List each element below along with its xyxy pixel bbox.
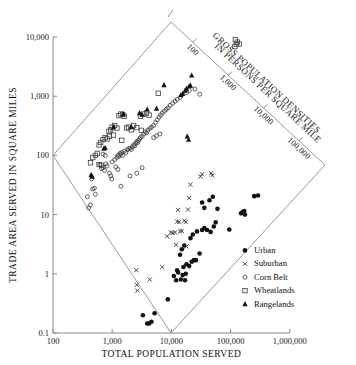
chart-svg: 1001,00010,000100,0001,000,0000.11101001… — [0, 0, 356, 365]
y-tick-label: 10 — [41, 210, 50, 220]
density-tick-label: 1,000 — [218, 72, 239, 92]
legend-item-rangelands[interactable]: Rangelands — [242, 299, 294, 309]
x-axis-title: TOTAL POPULATION SERVED — [102, 349, 242, 359]
x-tick-label: 1,000 — [103, 336, 122, 346]
x-tick-label: 10,000 — [160, 336, 183, 346]
legend-label: Rangelands — [254, 299, 295, 309]
legend-item-corn-belt[interactable]: Corn Belt — [243, 272, 288, 282]
density-axis-title-line2: IN PERSONS PER SQUARE MILE — [213, 41, 324, 145]
x-tick-label: 1,000,000 — [273, 336, 307, 346]
density-tick-label: 100 — [185, 41, 201, 57]
legend-label: Suburban — [254, 258, 288, 268]
scatter-chart-figure: 1001,00010,000100,0001,000,0000.11101001… — [0, 0, 356, 365]
density-axis: 1001,00010,000100,000GROSS POPULATION DE… — [185, 30, 323, 161]
legend-item-wheatlands[interactable]: Wheatlands — [243, 285, 295, 295]
legend-label: Wheatlands — [254, 285, 295, 295]
y-tick-label: 100 — [36, 150, 49, 160]
x-tick-label: 100,000 — [217, 336, 245, 346]
density-tick-label: 100,000 — [286, 135, 313, 161]
legend-item-suburban[interactable]: Suburban — [243, 258, 288, 268]
chart-legend[interactable]: UrbanSuburbanCorn BeltWheatlandsRangelan… — [242, 245, 295, 309]
legend-label: Urban — [254, 245, 276, 255]
series-wheatlands — [88, 38, 241, 168]
y-tick-label: 10,000 — [26, 32, 49, 42]
y-tick-label: 0.1 — [38, 328, 49, 338]
y-axis-title: TRADE AREA SERVED IN SQUARE MILES — [8, 87, 18, 283]
y-tick-label: 1,000 — [30, 91, 49, 101]
series-urban — [141, 193, 261, 326]
density-tick-label: 10,000 — [252, 104, 276, 127]
legend-label: Corn Belt — [254, 272, 288, 282]
y-tick-label: 1 — [45, 269, 49, 279]
